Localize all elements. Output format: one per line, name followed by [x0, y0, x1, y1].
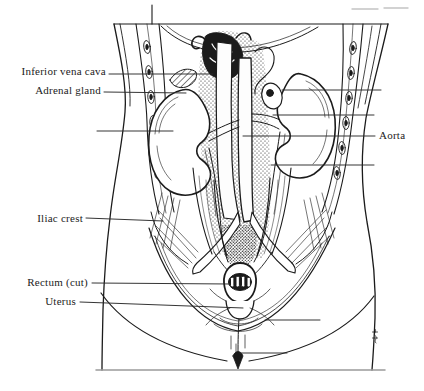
- label-inferior-vena-cava: Inferior vena cava: [21, 65, 106, 78]
- right-adrenal-vein-dot: [267, 90, 274, 97]
- figure-page: Inferior vena cava Adrenal gland Aorta I…: [0, 0, 424, 391]
- left-kidney: [149, 89, 211, 195]
- left-flank-hatch: [150, 193, 180, 250]
- label-uterus: Uterus: [45, 295, 76, 308]
- right-kidney: [275, 74, 335, 178]
- uterus-dome: [226, 301, 254, 319]
- leader-iliac-crest: [86, 218, 163, 221]
- right-body-contour: [362, 24, 388, 370]
- leader-uterus: [80, 302, 243, 308]
- aorta-vessel: [238, 58, 254, 222]
- wall-extra-line: [358, 26, 372, 108]
- label-adrenal-gland: Adrenal gland: [35, 84, 101, 97]
- anatomy-illustration: [0, 0, 424, 391]
- leader-rectum: [92, 283, 230, 284]
- label-aorta: Aorta: [379, 129, 405, 142]
- label-rectum-cut: Rectum (cut): [27, 276, 88, 289]
- label-iliac-crest: Iliac crest: [37, 212, 83, 225]
- scan-mark-faint: [352, 8, 408, 9]
- left-adrenal-gland: [170, 69, 197, 87]
- right-groin-crease: [249, 296, 374, 361]
